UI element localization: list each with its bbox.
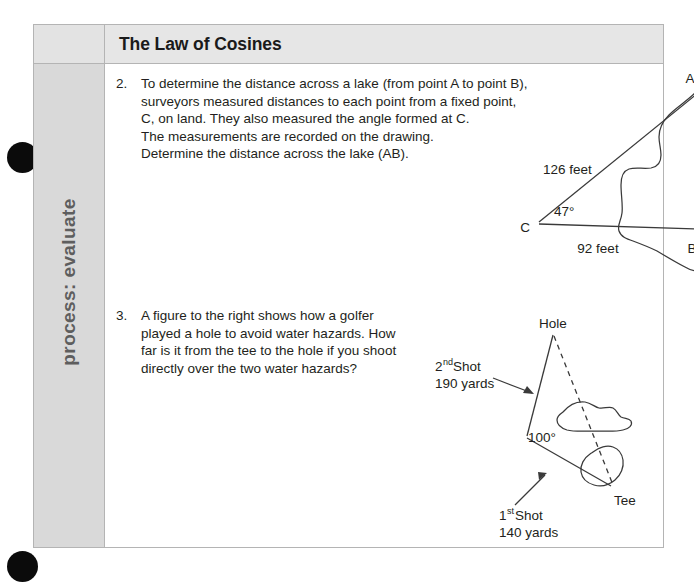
water-hazard-upper xyxy=(557,402,632,431)
problem-text-line: A figure to the right shows how a golfer xyxy=(141,307,441,325)
label-golf-angle: 100° xyxy=(528,430,556,445)
label-second-shot-superscript: nd xyxy=(443,357,453,367)
first-shot-arrow xyxy=(515,475,545,505)
label-angle-c: 47° xyxy=(554,204,574,219)
label-vertex-b: B xyxy=(687,241,694,256)
margin-punch-dot-bottom xyxy=(7,551,38,582)
worksheet-table: The Law of Cosines process: evaluate 2. … xyxy=(33,24,664,548)
label-first-shot-distance: 140 yards xyxy=(499,525,559,540)
page-title: The Law of Cosines xyxy=(119,34,282,55)
sidebar-process-label: process: evaluate xyxy=(58,198,80,365)
label-first-shot-superscript: st xyxy=(507,506,515,516)
problem-text-line: The measurements are recorded on the dra… xyxy=(141,128,441,146)
triangle-side-cb xyxy=(539,224,694,229)
label-first-shot-word: Shot xyxy=(515,508,543,523)
label-hole: Hole xyxy=(539,316,567,331)
lake-outline xyxy=(618,93,694,271)
problem-number: 2. xyxy=(116,75,136,93)
label-tee: Tee xyxy=(614,493,636,508)
golf-direct-dashed-line xyxy=(554,336,613,485)
golf-hole-figure: 2 nd Shot 190 yards 1 st Shot 140 yards xyxy=(435,315,660,540)
label-vertex-c: C xyxy=(520,220,530,235)
lake-survey-figure: A B C 126 feet 92 feet 47° xyxy=(430,71,660,286)
sidebar-process-column: process: evaluate xyxy=(34,64,105,547)
label-second-shot-word: Shot xyxy=(453,359,481,374)
problem-text-line: surveyors measured distances to each poi… xyxy=(141,93,441,111)
triangle-side-ca xyxy=(539,93,694,222)
golf-second-shot-line xyxy=(527,335,553,436)
problem-text: A figure to the right shows how a golfer… xyxy=(141,307,441,377)
problem-text: To determine the distance across a lake … xyxy=(141,75,441,163)
label-side-cb: 92 feet xyxy=(577,241,619,256)
label-vertex-a: A xyxy=(685,71,694,86)
header-title-cell: The Law of Cosines xyxy=(105,25,663,64)
label-first-shot-name: 1 xyxy=(499,508,507,523)
problem-text-line: Determine the distance across the lake (… xyxy=(141,145,441,163)
first-shot-arrow-head xyxy=(538,472,547,480)
content-column: 2. To determine the distance across a la… xyxy=(105,64,663,547)
label-second-shot-distance: 190 yards xyxy=(435,376,495,391)
problem-text-line: To determine the distance across a lake … xyxy=(141,75,441,93)
problem-number: 3. xyxy=(116,307,136,325)
water-hazard-lower xyxy=(581,446,623,486)
header-corner-cell xyxy=(34,25,105,64)
problem-text-line: C, on land. They also measured the angle… xyxy=(141,110,441,128)
label-second-shot-name: 2 xyxy=(435,359,443,374)
problem-text-line: directly over the two water hazards? xyxy=(141,360,441,378)
problem-text-line: played a hole to avoid water hazards. Ho… xyxy=(141,325,441,343)
label-side-ca: 126 feet xyxy=(543,162,592,177)
table-header-row: The Law of Cosines xyxy=(34,25,663,64)
problem-text-line: far is it from the tee to the hole if yo… xyxy=(141,342,441,360)
